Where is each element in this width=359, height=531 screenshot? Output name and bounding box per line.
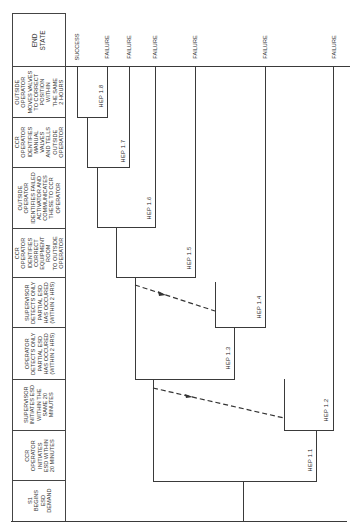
branch-success-1 — [153, 379, 154, 482]
branch-hep-1-8 — [107, 66, 108, 118]
bottom-baseline — [11, 521, 347, 522]
branch-hep-1-3 — [234, 327, 235, 380]
outcome-failure-4: FAILURE — [190, 18, 200, 62]
branch-recovery-stub-2 — [284, 379, 285, 431]
outcome-failure-5: FAILURE — [260, 18, 270, 62]
outcome-failure-6: FAILURE — [329, 18, 339, 62]
header-end-state: END STATE — [12, 13, 66, 66]
hep-label-1-6: HEP 1.6 — [144, 188, 154, 228]
arrowhead-icon — [185, 394, 193, 398]
hep-label-1-5: HEP 1.5 — [184, 238, 194, 278]
branch-initial-stem — [243, 481, 244, 521]
hep-label-1-2: HEP 1.2 — [321, 390, 331, 430]
branch-hep-1-4 — [265, 66, 266, 328]
branch-hep-1-5 — [195, 66, 196, 278]
header-s1-begins: S1 BEGINS ESD DEMAND — [12, 480, 66, 521]
branch-hep-1-6 — [155, 66, 156, 228]
header-ccr-identifies-manual-valves: CCR OPERATOR IDENTIFIES MANUAL VALVES AN… — [12, 117, 66, 167]
branch-recovery-stub-4 — [215, 282, 216, 328]
hep-label-1-1: HEP 1.1 — [305, 440, 315, 480]
branch-success-6 — [97, 167, 98, 228]
hep-label-1-3: HEP 1.3 — [223, 338, 233, 378]
arrowhead-icon — [158, 291, 166, 296]
branch-split-4 — [215, 327, 266, 328]
outcome-failure-2: FAILURE — [124, 18, 134, 62]
header-outside-moves-valves: OUTSIDE OPERATOR MOVES VALVES TO CORRECT… — [12, 66, 66, 117]
branch-success-5 — [116, 227, 117, 278]
top-baseline — [66, 66, 350, 67]
branch-split-8 — [77, 117, 108, 118]
branch-success-3 — [135, 277, 136, 380]
header-ccr-identifies-equipment-room: CCR OPERATOR IDENTIFIES CORRECT EQUIPMEN… — [12, 228, 66, 277]
outcome-failure-3: FAILURE — [150, 18, 160, 62]
hep-label-1-7: HEP 1.7 — [118, 131, 128, 171]
branch-success-7 — [87, 117, 88, 168]
branch-split-1 — [153, 481, 317, 482]
branch-split-3 — [135, 379, 235, 380]
header-supervisor-initiates-esd: SUPERVISOR INITIATES ESD WITHIN THE SAME… — [12, 379, 66, 430]
outcome-success: SUCCESS — [72, 18, 82, 62]
branch-hep-1-7 — [129, 66, 130, 168]
header-ccr-initiates-esd: CCR OPERATOR INITIATES ESD WITHIN 20 MIN… — [12, 430, 66, 480]
branch-hep-1-1 — [316, 430, 317, 482]
branch-hep-1-2 — [333, 66, 334, 431]
branch-split-2 — [284, 430, 333, 431]
hep-label-1-4: HEP 1.4 — [254, 287, 264, 327]
event-tree-diagram: END STATE OUTSIDE OPERATOR MOVES VALVES … — [0, 0, 359, 531]
branch-success-final — [77, 66, 78, 118]
outcome-failure-1: FAILURE — [102, 18, 112, 62]
hep-label-1-8: HEP 1.8 — [96, 76, 106, 116]
header-supervisor-detects-partial: SUPERVISOR DETECTS ONLY PARTIAL ESD HAS … — [12, 277, 66, 327]
header-outside-identifies-failed: OUTSIDE OPERATOR IDENTIFIES FAILED ACTIV… — [12, 167, 66, 228]
header-operator-detects-partial: OPERATOR DETECTS ONLY PARTIAL ESD HAS OC… — [12, 327, 66, 379]
